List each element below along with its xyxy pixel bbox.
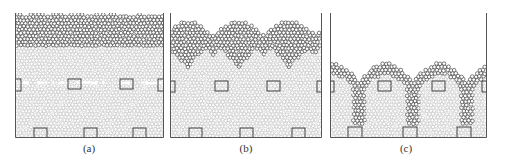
particle-simulation-a (15, 13, 164, 138)
particle-simulation-b (170, 13, 322, 138)
panel-a (15, 13, 164, 138)
particle-simulation-c (330, 13, 487, 138)
caption-a: (a) (79, 142, 99, 154)
caption-c: (c) (396, 142, 416, 154)
panel-b (170, 13, 322, 138)
caption-b: (b) (236, 142, 256, 154)
panel-c (330, 13, 487, 138)
